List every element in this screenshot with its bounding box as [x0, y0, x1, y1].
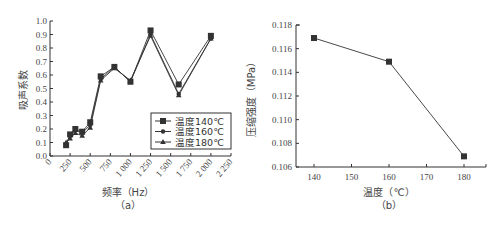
x-tick-label: 2 000 — [194, 156, 215, 178]
chart-b-axes — [296, 25, 486, 167]
series-line — [314, 38, 464, 156]
chart-b-series — [311, 35, 467, 159]
square-marker-icon — [311, 35, 317, 41]
circle-marker-icon — [161, 129, 165, 133]
x-tick-label: 500 — [77, 156, 94, 173]
chart-a-legend: 温度140℃温度160℃温度180℃ — [151, 113, 231, 149]
chart-b-caption: （b） — [376, 200, 402, 211]
chart-a-y-axis-title: 吸声系数 — [17, 70, 29, 110]
x-tick-label: 2 250 — [214, 156, 235, 178]
square-marker-icon — [461, 153, 467, 159]
x-tick-label: 1 000 — [113, 156, 134, 178]
legend-label: 温度180℃ — [175, 137, 224, 148]
chart-a-absorption: 0.00.10.20.30.40.50.60.70.80.91.0 025050… — [17, 16, 235, 211]
legend-label: 温度160℃ — [175, 126, 224, 137]
x-tick-label: 750 — [98, 156, 115, 173]
y-tick-label: 0.4 — [36, 97, 48, 107]
y-tick-label: 0.3 — [36, 111, 48, 121]
y-tick-label: 0.8 — [36, 43, 48, 53]
y-tick-label: 0.116 — [272, 44, 292, 54]
y-tick-label: 0.9 — [36, 30, 48, 40]
square-marker-icon — [176, 81, 182, 87]
square-marker-icon — [160, 118, 166, 124]
y-tick-label: 0.1 — [36, 138, 47, 148]
y-tick-label: 0.5 — [36, 84, 48, 94]
series-0 — [311, 35, 467, 159]
y-tick-label: 0.118 — [272, 20, 292, 30]
x-tick-label: 1 250 — [133, 156, 154, 178]
x-tick-label: 180 — [457, 172, 471, 182]
legend-label: 温度140℃ — [175, 116, 224, 127]
x-tick-label: 1 500 — [154, 156, 175, 178]
y-tick-label: 0.6 — [36, 70, 48, 80]
chart-a-x-ticks: 02505007501 0001 2501 5001 7502 0002 250 — [43, 153, 235, 179]
chart-a-caption: （a） — [115, 200, 141, 211]
x-tick-label: 170 — [420, 172, 434, 182]
y-tick-label: 0.108 — [272, 138, 293, 148]
y-tick-label: 0.114 — [272, 67, 292, 77]
x-tick-label: 160 — [382, 172, 396, 182]
x-tick-label: 150 — [345, 172, 359, 182]
x-tick-label: 0 — [43, 156, 54, 166]
x-tick-label: 250 — [57, 156, 74, 173]
chart-b-y-ticks: 0.1060.1080.1100.1120.1140.1160.118 — [272, 20, 299, 172]
y-tick-label: 0.7 — [36, 57, 48, 67]
x-tick-label: 140 — [307, 172, 321, 182]
square-marker-icon — [386, 59, 392, 65]
y-tick-label: 0.110 — [272, 115, 292, 125]
y-tick-label: 1.0 — [36, 16, 48, 26]
figure: 0.00.10.20.30.40.50.60.70.80.91.0 025050… — [0, 0, 501, 225]
x-tick-label: 1 750 — [174, 156, 195, 178]
y-tick-label: 0.2 — [36, 124, 47, 134]
y-tick-label: 0.112 — [272, 91, 292, 101]
chart-a-x-axis-title: 频率（Hz） — [102, 186, 155, 198]
chart-b-compressive-strength: 0.1060.1080.1100.1120.1140.1160.118 1401… — [245, 20, 486, 211]
chart-b-y-axis-title: 压缩强度（MPa） — [245, 57, 257, 137]
y-tick-label: 0.106 — [272, 162, 293, 172]
chart-b-x-axis-title: 温度（℃） — [363, 186, 414, 198]
